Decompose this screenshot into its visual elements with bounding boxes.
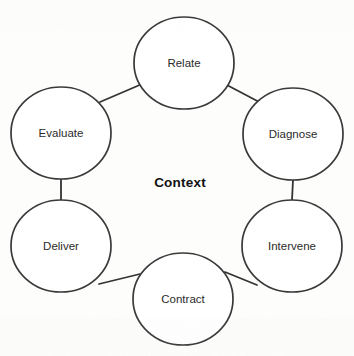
node-intervene[interactable]: Intervene <box>242 200 342 292</box>
node-label-deliver: Deliver <box>43 240 79 252</box>
node-label-diagnose: Diagnose <box>269 128 318 140</box>
node-evaluate[interactable]: Evaluate <box>11 87 111 179</box>
connector-contract-deliver <box>99 274 140 284</box>
node-label-evaluate: Evaluate <box>39 127 84 139</box>
center-label: Context <box>154 175 206 190</box>
connector-evaluate-relate <box>100 84 142 102</box>
diagram-canvas: RelateDiagnoseInterveneContractDeliverEv… <box>0 0 354 356</box>
node-relate[interactable]: Relate <box>134 17 234 109</box>
connector-diagnose-intervene <box>292 180 293 200</box>
node-contract[interactable]: Contract <box>133 253 233 345</box>
node-label-relate: Relate <box>167 57 200 69</box>
cycle-diagram: RelateDiagnoseInterveneContractDeliverEv… <box>0 0 354 356</box>
node-label-contract: Contract <box>161 293 205 305</box>
node-diagnose[interactable]: Diagnose <box>243 88 343 180</box>
node-label-intervene: Intervene <box>268 240 316 252</box>
node-deliver[interactable]: Deliver <box>11 200 111 292</box>
